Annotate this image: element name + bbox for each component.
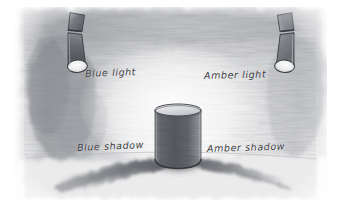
white-border-frame [0,0,341,214]
label-amber-light: Amber light [204,68,266,81]
sketch-canvas [0,0,341,214]
pencil-sketch-illustration: Blue light Amber light Blue shadow Amber… [0,0,341,214]
label-blue-light: Blue light [85,66,136,79]
